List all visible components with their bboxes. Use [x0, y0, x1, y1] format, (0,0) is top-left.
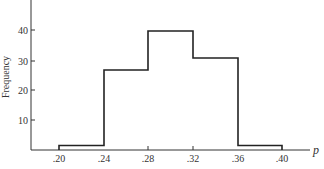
x-ticks: .20 .24 .28 .32 .36 .40	[53, 146, 289, 164]
y-axis-title: Frequency	[0, 56, 11, 98]
y-tick-label: 20	[18, 85, 28, 96]
x-tick-label: .36	[232, 153, 245, 164]
x-tick-label: .20	[53, 153, 66, 164]
y-tick-label: 40	[18, 25, 28, 36]
x-tick-label: .24	[98, 153, 111, 164]
histogram-chart: 10 20 30 40 Frequency .20 .24 .28 .32 .3…	[0, 0, 324, 169]
x-tick-label: .40	[276, 153, 289, 164]
x-tick-label: .28	[142, 153, 155, 164]
y-tick-label: 10	[18, 115, 28, 126]
y-ticks: 10 20 30 40	[18, 25, 35, 126]
histogram-outline	[59, 31, 282, 150]
x-axis-title: p	[312, 143, 319, 157]
y-tick-label: 30	[18, 56, 28, 67]
x-tick-label: .32	[187, 153, 200, 164]
